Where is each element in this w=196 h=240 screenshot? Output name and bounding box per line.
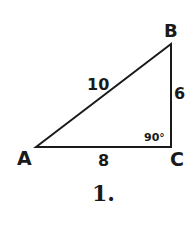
vertex-label-a: A: [17, 149, 32, 168]
vertex-label-b: B: [164, 22, 178, 40]
figure-caption: 1.: [92, 182, 115, 204]
angle-label-c: 90°: [144, 132, 165, 143]
side-label-ac: 8: [98, 153, 109, 169]
side-label-bc: 6: [174, 86, 185, 102]
vertex-label-c: C: [170, 150, 184, 169]
side-label-ab: 10: [87, 77, 109, 93]
